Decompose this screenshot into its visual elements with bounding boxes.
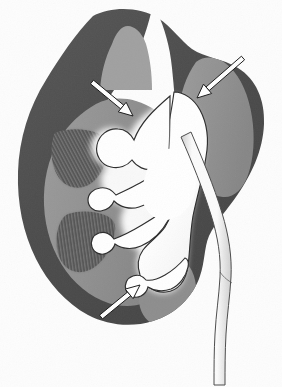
figure-root: Kidney coronal section — [0, 0, 282, 387]
kidney-diagram — [0, 0, 282, 387]
paper-texture — [0, 0, 282, 387]
